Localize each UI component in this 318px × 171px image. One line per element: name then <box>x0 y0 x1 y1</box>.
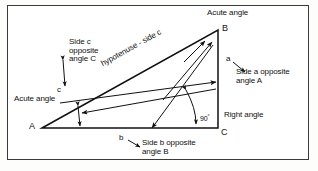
b-marker-arrow <box>128 140 140 147</box>
side-b-marker-label: b <box>119 134 123 143</box>
side-a-to-angle-a-leader <box>82 89 216 113</box>
degree-symbol: ° <box>208 113 210 119</box>
side-c-leader <box>63 60 65 86</box>
acute-angle-top-label: Acute angle <box>207 9 248 18</box>
vertex-c-label: C <box>221 128 227 138</box>
right-angle-arc <box>186 90 196 124</box>
figure-canvas: Acute angle B hypotenuse - side c Side c… <box>0 0 318 171</box>
side-c-marker-label: c <box>57 86 61 95</box>
side-c-description-label: Side coppositeangle C <box>69 38 98 64</box>
side-a-description-label: Side a oppositeangle A <box>236 68 290 85</box>
right-angle-value-label: 90° <box>200 114 210 123</box>
side-b-description-label: Side b oppositeangle B <box>142 139 196 156</box>
side-a-marker-label: a <box>226 55 230 64</box>
angle-a-to-side-a-leader <box>60 82 216 103</box>
angle-a-leader <box>78 106 80 126</box>
vertex-b-label: B <box>222 24 228 34</box>
vertex-a-label: A <box>29 122 35 132</box>
angle-value: 90 <box>200 115 208 122</box>
hypotenuse-marker-leader <box>184 41 205 62</box>
right-angle-label: Right angle <box>224 111 263 120</box>
acute-angle-left-label: Acute angle <box>14 95 55 104</box>
